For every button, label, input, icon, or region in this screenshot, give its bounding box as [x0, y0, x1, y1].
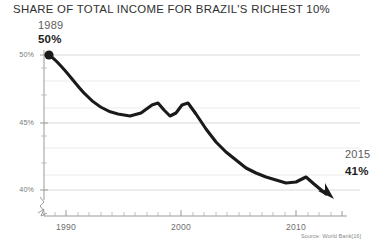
y-axis — [40, 50, 48, 200]
y-tick-label-50: 50% — [8, 50, 34, 59]
x-tick-label-1990: 1990 — [46, 222, 86, 232]
chart-container: SHARE OF TOTAL INCOME FOR BRAZIL'S RICHE… — [0, 0, 392, 252]
start-data-point — [44, 50, 53, 59]
end-arrowhead — [318, 183, 334, 199]
axis-break-mark — [38, 197, 47, 216]
y-tick-label-45: 45% — [8, 118, 34, 127]
source-note: Source: World Bank[16] — [301, 233, 361, 239]
end-annotation-year: 2015 — [345, 148, 370, 160]
data-line — [49, 55, 326, 194]
end-annotation-value: 41% — [345, 165, 369, 177]
x-tick-label-2010: 2010 — [276, 222, 316, 232]
start-annotation-year: 1989 — [38, 19, 63, 31]
x-tick-label-2000: 2000 — [161, 222, 201, 232]
y-tick-label-40: 40% — [8, 185, 34, 194]
x-axis — [44, 210, 347, 216]
start-annotation-value: 50% — [38, 33, 62, 45]
